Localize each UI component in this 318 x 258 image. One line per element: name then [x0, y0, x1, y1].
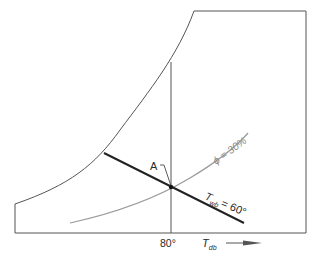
psychrometric-diagram: A ϕ = 30% Twb= 60° 80° Tdb — [0, 0, 318, 258]
rh-30-curve — [70, 133, 248, 223]
tdb-axis-label: Tdb — [202, 237, 217, 251]
chart-boundary — [15, 11, 306, 233]
tdb-80-tick-label: 80° — [160, 237, 176, 249]
point-a-label: A — [150, 160, 158, 172]
twb-label: Twb= 60° — [202, 190, 248, 220]
tdb-arrow-icon — [226, 241, 262, 246]
twb-value: = 60° — [219, 197, 248, 218]
wet-bulb-60-line — [104, 153, 244, 223]
svg-text:Twb= 60°: Twb= 60° — [202, 190, 248, 220]
tdb-subscript: db — [209, 244, 217, 251]
twb-subscript: wb — [209, 199, 220, 209]
phi-30-label: ϕ = 30% — [210, 134, 248, 167]
